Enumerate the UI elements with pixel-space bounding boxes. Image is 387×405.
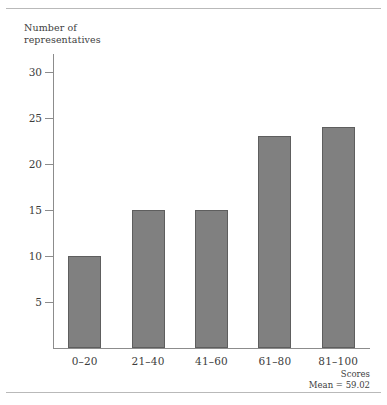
y-axis-tick: [45, 210, 54, 211]
y-axis-tick-label: 10: [12, 251, 42, 262]
x-axis-category-label: 21–40: [116, 355, 179, 367]
y-axis-tick: [45, 302, 54, 303]
y-axis-tick-value: 25: [16, 113, 42, 124]
y-axis-tick-value: 5: [16, 297, 42, 308]
bar-chart: Number of representatives 51015202530 0–…: [0, 0, 387, 405]
x-axis-category-label: 41–60: [180, 355, 243, 367]
y-axis-tick: [45, 72, 54, 73]
x-axis-annotation-scores: Scores: [341, 369, 370, 379]
y-axis-line: [53, 54, 54, 349]
y-axis-tick-value: 10: [16, 251, 42, 262]
y-axis-tick-value: 20: [16, 159, 42, 170]
y-axis-tick: [45, 118, 54, 119]
bar: [132, 210, 165, 348]
bar: [322, 127, 355, 348]
y-axis-tick-label: 25: [12, 113, 42, 124]
bar: [195, 210, 228, 348]
x-axis-line: [53, 348, 370, 349]
bar: [68, 256, 101, 348]
y-axis-tick-value: 15: [16, 205, 42, 216]
y-axis-tick-label: 20: [12, 159, 42, 170]
bar: [258, 136, 291, 348]
x-axis-category-label: 61–80: [243, 355, 306, 367]
y-axis-tick-label: 30: [12, 67, 42, 78]
y-axis-tick: [45, 256, 54, 257]
mean-annotation: Mean = 59.02: [309, 380, 370, 390]
x-axis-category-label: 81–100: [307, 355, 370, 367]
y-axis-tick-label: 5: [12, 297, 42, 308]
y-axis-tick-value: 30: [16, 67, 42, 78]
y-axis-tick-label: 15: [12, 205, 42, 216]
y-axis-title: Number of representatives: [24, 22, 101, 45]
x-axis-category-label: 0–20: [53, 355, 116, 367]
y-axis-tick: [45, 164, 54, 165]
